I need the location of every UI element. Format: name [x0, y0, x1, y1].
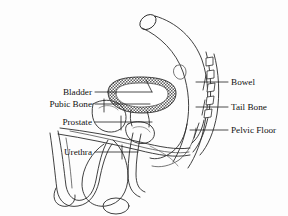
label-urethra: Urethra	[64, 147, 92, 157]
penis-shaft-detail	[66, 138, 72, 188]
pelvic-floor-upper	[60, 128, 190, 149]
prostate-inner-detail	[133, 127, 150, 132]
coccyx-tip	[192, 120, 204, 143]
bowel-loop-detail	[173, 65, 186, 79]
bladder-structure	[100, 70, 186, 127]
label-group-left: Bladder Pubic Bone Prostate Urethra	[49, 87, 92, 157]
leader-bowel-tick	[203, 75, 206, 90]
vertebra-segment-4	[206, 96, 214, 105]
label-tail-bone: Tail Bone	[231, 102, 267, 112]
vertebra-segment-2	[207, 70, 214, 79]
urethra-wall-left	[128, 133, 140, 197]
label-bowel: Bowel	[231, 77, 255, 87]
bowel-open-end	[137, 11, 159, 32]
anatomy-illustration: Bladder Pubic Bone Prostate Urethra Bowe…	[0, 0, 288, 216]
vertebra-segment-5	[204, 109, 212, 118]
bladder-fill	[100, 70, 186, 120]
label-pubic-bone: Pubic Bone	[49, 99, 92, 109]
tail-bone-structure	[192, 52, 219, 155]
label-prostate: Prostate	[62, 117, 92, 127]
label-group-right: Bowel Tail Bone Pelvic Floor	[231, 77, 276, 135]
penis-lower-edge	[50, 133, 112, 206]
label-pelvic-floor: Pelvic Floor	[231, 125, 276, 135]
label-bladder: Bladder	[63, 87, 92, 97]
vertebra-segment-1	[206, 57, 213, 66]
vertebra-segment-3	[207, 83, 215, 92]
diagram-canvas: Bladder Pubic Bone Prostate Urethra Bowe…	[0, 0, 288, 216]
